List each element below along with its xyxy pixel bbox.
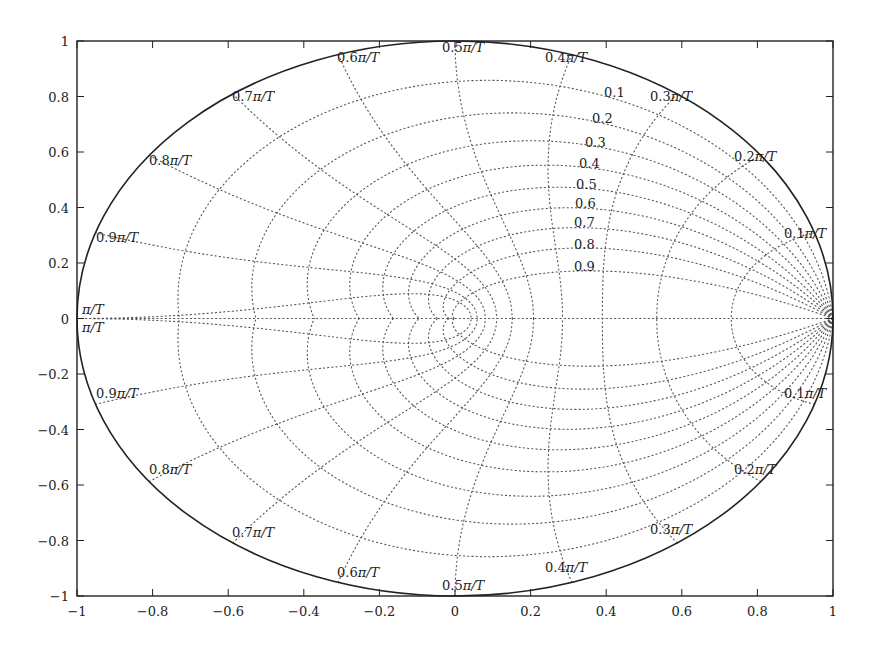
frequency-label-upper: 0.2π/T: [734, 149, 778, 164]
damping-label: 0.7: [574, 215, 595, 230]
damping-curve-0.1: [178, 80, 833, 318]
damping-label: 0.4: [579, 156, 600, 171]
y-tick-label: 0: [61, 312, 69, 327]
frequency-curve-0.8: [149, 155, 485, 318]
frequency-label-lower: 0.9π/T: [96, 386, 140, 401]
y-tick-label: 0.2: [48, 256, 69, 271]
x-tick-label: −1: [67, 604, 86, 619]
y-tick-label: −0.8: [37, 534, 69, 549]
frequency-curve-0.2: [657, 319, 761, 482]
x-tick-label: −0.4: [288, 604, 320, 619]
frequency-curve-0.7: [233, 94, 497, 319]
frequency-label-upper: 0.6π/T: [337, 50, 381, 65]
y-tick-label: 1: [61, 34, 69, 49]
y-tick-label: −0.2: [37, 367, 69, 382]
y-tick-label: 0.8: [48, 90, 69, 105]
damping-label: 0.1: [604, 85, 625, 100]
frequency-label-lower: π/T: [81, 320, 105, 335]
frequency-curve-1: [77, 294, 471, 319]
frequency-label-upper: 0.1π/T: [784, 226, 828, 241]
frequency-label-upper: 0.5π/T: [442, 40, 486, 55]
frequency-label-lower: 0.1π/T: [784, 386, 828, 401]
x-tick-label: −0.8: [137, 604, 169, 619]
damping-curve-0.6: [409, 319, 833, 430]
frequency-label-lower: 0.7π/T: [232, 525, 276, 540]
x-tick-label: −0.2: [364, 604, 396, 619]
frequency-label-upper: 0.9π/T: [96, 230, 140, 245]
frequency-curve-0.1: [731, 233, 814, 319]
frequency-label-lower: 0.4π/T: [545, 560, 589, 575]
frequency-curve-0.3: [602, 94, 677, 319]
x-tick-label: 0.2: [520, 604, 541, 619]
y-tick-label: 0.4: [48, 201, 69, 216]
damping-label: 0.2: [592, 111, 613, 126]
grid-labels: 0.1π/T0.1π/T0.2π/T0.2π/T0.3π/T0.3π/T0.4π…: [81, 40, 828, 593]
damping-curve-0.2: [252, 319, 833, 525]
frequency-curve-0.2: [657, 155, 761, 318]
frequency-curve-0.4: [548, 319, 572, 583]
y-tick-label: −0.6: [37, 478, 69, 493]
frequency-curve-0.5: [455, 41, 534, 319]
damping-curve-0.9: [453, 271, 834, 319]
damping-curve-0.9: [453, 319, 834, 367]
damping-label: 0.8: [574, 237, 595, 252]
y-tick-label: 0.6: [48, 145, 69, 160]
axis-ticks: −1−0.8−0.6−0.4−0.200.20.40.60.8110.80.60…: [37, 34, 837, 619]
grid-lines: [77, 41, 833, 596]
damping-label: 0.9: [574, 259, 595, 274]
frequency-label-upper: 0.7π/T: [232, 89, 276, 104]
x-tick-label: 0.4: [596, 604, 617, 619]
damping-label: 0.3: [585, 135, 606, 150]
frequency-curve-0.8: [149, 319, 485, 482]
frequency-label-upper: 0.4π/T: [545, 50, 589, 65]
damping-label: 0.5: [576, 177, 597, 192]
frequency-curve-1: [77, 319, 471, 344]
frequency-label-upper: 0.3π/T: [650, 89, 694, 104]
damping-curve-0.3: [307, 141, 833, 319]
frequency-label-lower: 0.5π/T: [442, 578, 486, 593]
x-tick-label: 1: [829, 604, 837, 619]
z-plane-grid-chart: −1−0.8−0.6−0.4−0.200.20.40.60.8110.80.60…: [0, 0, 881, 646]
damping-label: 0.6: [575, 196, 596, 211]
damping-curve-0.7: [429, 228, 834, 319]
frequency-curve-0.6: [338, 55, 512, 319]
frequency-label-upper: 0.8π/T: [149, 153, 193, 168]
frequency-label-lower: 0.8π/T: [149, 462, 193, 477]
x-tick-label: 0.8: [747, 604, 768, 619]
damping-curve-0.2: [252, 113, 833, 319]
y-tick-label: −1: [50, 589, 69, 604]
frequency-curve-0.5: [455, 319, 534, 597]
damping-curve-0.6: [409, 208, 833, 319]
frequency-curve-0.7: [233, 319, 497, 544]
frequency-label-lower: 0.6π/T: [337, 565, 381, 580]
frequency-label-lower: 0.2π/T: [734, 462, 778, 477]
damping-curve-0.1: [178, 319, 833, 557]
damping-curve-0.8: [443, 248, 833, 319]
x-tick-label: 0.6: [671, 604, 692, 619]
frequency-curve-0.3: [602, 319, 677, 544]
damping-curve-0.7: [429, 319, 834, 410]
x-tick-label: 0: [451, 604, 459, 619]
damping-curve-0.8: [443, 319, 833, 390]
x-tick-label: −0.6: [212, 604, 244, 619]
frequency-label-upper: π/T: [81, 302, 105, 317]
frequency-curve-0.4: [548, 55, 572, 319]
frequency-curve-0.6: [338, 319, 512, 583]
y-tick-label: −0.4: [37, 423, 69, 438]
frequency-label-lower: 0.3π/T: [650, 522, 694, 537]
